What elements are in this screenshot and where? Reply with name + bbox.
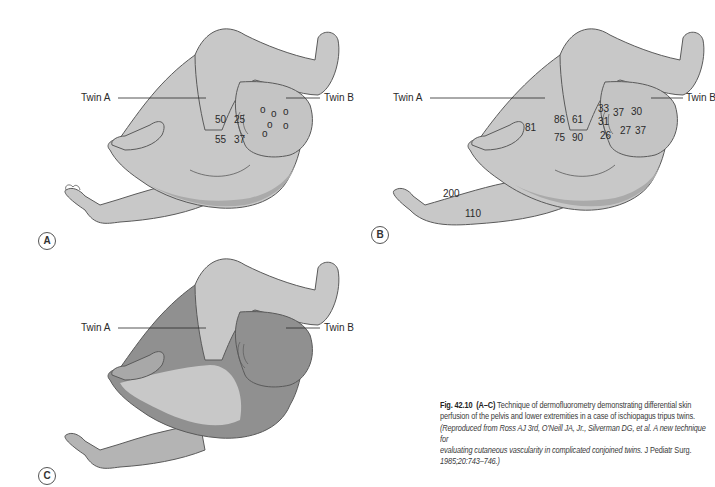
twin-b-label: Twin B — [324, 322, 354, 333]
figure-b-drawing: Twin A Twin B 81 86 61 75 90 33 37 30 31… — [355, 0, 715, 255]
caption-text: Technique of dermofluorometry demonstrat… — [495, 400, 691, 410]
value-label: 33 — [598, 103, 610, 114]
value-label: 37 — [613, 107, 625, 118]
panel-badge-c: C — [38, 467, 56, 485]
value-label: 55 — [215, 134, 227, 145]
value-label: 37 — [234, 134, 246, 145]
value-label: 200 — [443, 188, 460, 199]
value-label: 110 — [465, 208, 481, 219]
panel-a: Twin A Twin B 50 25 55 37 o o o o o o A — [0, 0, 360, 259]
value-label: 61 — [572, 114, 584, 125]
value-label: 26 — [600, 130, 612, 141]
marker: o — [283, 120, 289, 131]
twin-a-label: Twin A — [393, 92, 423, 103]
value-label: 31 — [598, 116, 610, 127]
twin-a-label: Twin A — [81, 92, 111, 103]
figure-number: Fig. 42.10 — [440, 400, 472, 410]
figure-range: (A–C) — [476, 400, 495, 410]
twin-a-label: Twin A — [81, 322, 111, 333]
caption-line-3: (Reproduced from Ross AJ 3rd, O'Neill JA… — [440, 423, 715, 446]
marker: o — [262, 128, 268, 139]
marker: o — [267, 119, 273, 130]
panel-c: Twin A Twin B C — [0, 255, 360, 487]
journal-name: J Pediatr Surg. — [643, 445, 692, 455]
marker: o — [271, 108, 277, 119]
twin-b-label: Twin B — [324, 92, 354, 103]
figure-caption: Fig. 42.10 (A–C) Technique of dermofluor… — [440, 400, 715, 468]
value-label: 25 — [234, 114, 246, 125]
value-label: 37 — [635, 125, 647, 136]
article-title: evaluating cutaneous vascularity in comp… — [440, 445, 643, 455]
panel-badge-a: A — [38, 232, 56, 250]
caption-line-2: perfusion of the pelvis and lower extrem… — [440, 411, 715, 422]
caption-line-5: 1985;20:743–746.) — [440, 456, 715, 467]
marker: o — [260, 104, 266, 115]
value-label: 50 — [215, 114, 227, 125]
figure-a-drawing: Twin A Twin B 50 25 55 37 o o o o o o — [0, 0, 360, 255]
value-label: 90 — [572, 132, 584, 143]
twin-b-label: Twin B — [686, 92, 715, 103]
value-label: 27 — [620, 125, 632, 136]
value-label: 81 — [525, 122, 537, 133]
caption-line-4: evaluating cutaneous vascularity in comp… — [440, 445, 715, 456]
value-label: 30 — [631, 106, 643, 117]
figure-c-drawing: Twin A Twin B — [0, 255, 360, 483]
panel-b: Twin A Twin B 81 86 61 75 90 33 37 30 31… — [355, 0, 715, 259]
value-label: 86 — [554, 114, 566, 125]
value-label: 75 — [554, 132, 566, 143]
marker: o — [283, 106, 289, 117]
caption-line-1: Fig. 42.10 (A–C) Technique of dermofluor… — [440, 400, 715, 411]
panel-badge-b: B — [371, 226, 389, 244]
